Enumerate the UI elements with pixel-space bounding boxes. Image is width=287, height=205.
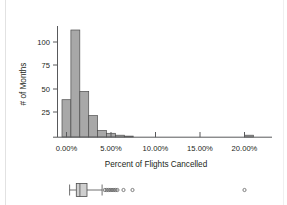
x-axis: 0.00% 5.00% 10.00% 15.00% 20.00% Percent… [53, 132, 272, 169]
y-tick-label-50: 50 [42, 85, 50, 94]
page-edge-right-rule [283, 0, 284, 205]
x-axis-title: Percent of Flights Cancelled [105, 160, 208, 169]
x-tick-label-20: 20.00% [232, 144, 258, 153]
bar-bin-2 [80, 91, 89, 137]
y-tick-label-75: 75 [42, 61, 50, 70]
x-tick-label-15: 15.00% [187, 144, 213, 153]
page-edge-left-rule [5, 0, 6, 205]
bar-bin-4 [98, 131, 107, 138]
y-axis: 100 75 50 25 # of Months [19, 26, 58, 137]
x-tick-label-10: 10.00% [143, 144, 169, 153]
histogram-bars [62, 30, 253, 137]
boxplot-outlier [122, 188, 125, 191]
y-tick-label-100: 100 [37, 38, 50, 47]
boxplot-outlier-extreme [243, 188, 246, 191]
y-axis-title: # of Months [19, 63, 28, 106]
histogram-and-boxplot-svg: 100 75 50 25 # of Months [0, 0, 287, 205]
figure-container: 100 75 50 25 # of Months [0, 0, 287, 205]
boxplot [70, 184, 247, 197]
boxplot-box [76, 184, 87, 197]
y-tick-label-25: 25 [42, 108, 50, 117]
bar-bin-0 [62, 100, 71, 137]
bar-bin-1 [71, 30, 80, 137]
boxplot-outlier [131, 188, 134, 191]
x-tick-label-5: 5.00% [100, 144, 122, 153]
bar-bin-3 [89, 116, 98, 137]
x-tick-label-0: 0.00% [56, 144, 78, 153]
